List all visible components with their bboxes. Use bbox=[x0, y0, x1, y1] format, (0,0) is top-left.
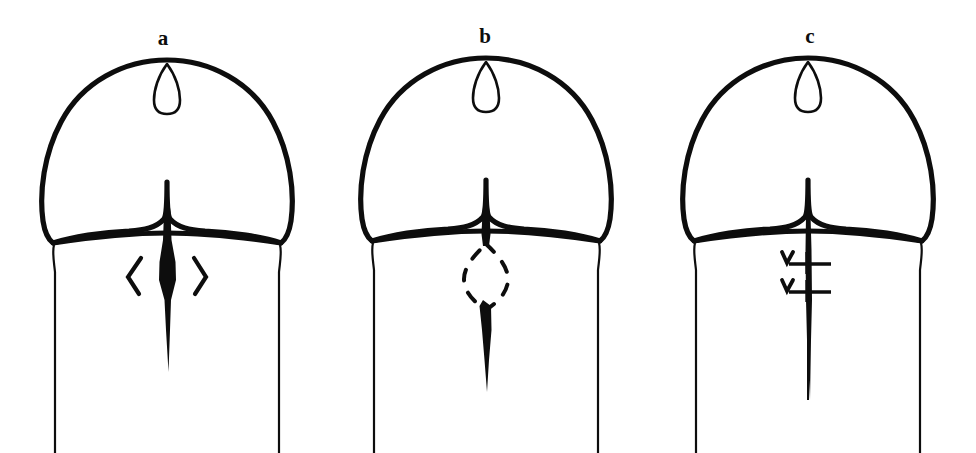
ventral-slit-upper-b bbox=[482, 180, 491, 246]
meatus-outline-a bbox=[154, 64, 180, 114]
ventral-slit-lower-b bbox=[480, 300, 492, 392]
meatus-outline-b bbox=[473, 62, 499, 112]
arrowhead-right-marker-a bbox=[194, 258, 206, 294]
suture-knot-2-c bbox=[782, 280, 793, 291]
shaft-right-line-c bbox=[920, 243, 922, 453]
ventral-slit-a bbox=[159, 182, 176, 372]
figure-container: a b bbox=[0, 0, 976, 453]
panel-b-label: b bbox=[479, 24, 491, 48]
shaft-left-line-a bbox=[53, 245, 55, 453]
panel-c-label: c bbox=[805, 24, 814, 48]
shaft-right-line-b bbox=[598, 243, 600, 453]
panel-b: b bbox=[361, 24, 612, 453]
panel-a-label: a bbox=[158, 26, 169, 50]
arrowhead-left-marker-a bbox=[128, 258, 141, 294]
panel-c: c bbox=[683, 24, 934, 453]
suture-mark-2-c bbox=[782, 280, 831, 302]
suture-knot-1-c bbox=[782, 252, 793, 263]
meatus-outline-c bbox=[795, 62, 821, 112]
suture-mark-1-c bbox=[782, 252, 831, 274]
surgical-technique-diagram: a b bbox=[0, 0, 976, 453]
panel-a: a bbox=[42, 26, 293, 453]
excision-outline-b bbox=[464, 244, 508, 310]
shaft-left-line-c bbox=[694, 243, 696, 453]
shaft-left-line-b bbox=[372, 243, 374, 453]
shaft-right-line-a bbox=[279, 245, 281, 453]
